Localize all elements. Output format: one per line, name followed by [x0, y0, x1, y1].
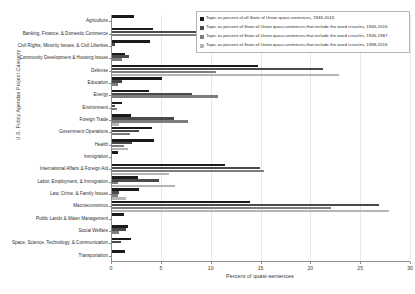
bar	[112, 148, 128, 151]
y-tick-label: Community Development & Housing Issues	[19, 56, 108, 61]
y-tick-label: Transportation	[79, 254, 108, 259]
legend-swatch-icon	[200, 35, 204, 39]
x-tick-mark	[211, 262, 212, 264]
bar	[112, 241, 121, 244]
bar	[112, 210, 389, 213]
y-tick-label: Defense	[91, 68, 108, 73]
bar	[112, 95, 218, 98]
gridline	[161, 15, 162, 262]
x-tick-label: 5	[159, 265, 162, 271]
legend-item[interactable]: Topic as percent of all State of Union q…	[200, 14, 406, 23]
legend-label: Topic as percent of State of Union quasi…	[206, 25, 387, 29]
bar	[112, 250, 125, 253]
x-tick-mark	[111, 262, 112, 264]
x-tick-label: 20	[307, 265, 313, 271]
bar	[112, 213, 124, 216]
x-tick-mark	[310, 262, 311, 264]
y-tick-label: Public Lands & Water Management	[36, 216, 108, 221]
bar	[112, 231, 119, 234]
y-tick-label: Space, Science, Technology, & Communicat…	[12, 241, 108, 246]
y-axis-line	[111, 15, 112, 262]
y-tick-label: Law, Crime, & Family Issues	[50, 192, 108, 197]
legend-swatch-icon	[200, 17, 204, 21]
bar	[112, 133, 130, 136]
bar	[112, 108, 117, 111]
bar	[112, 58, 122, 61]
bar	[112, 179, 159, 182]
legend-label: Topic as percent of State of Union quasi…	[206, 34, 387, 38]
y-tick-label: Social Welfare	[78, 229, 108, 234]
chart-legend: Topic as percent of all State of Union q…	[196, 11, 410, 53]
bar	[112, 15, 134, 18]
bar	[112, 173, 169, 176]
legend-label: Topic as percent of State of Union quasi…	[206, 43, 387, 47]
x-tick-label: 25	[357, 265, 363, 271]
y-tick-label: Energy	[93, 93, 108, 98]
legend-label: Topic as percent of all State of Union q…	[206, 16, 334, 20]
legend-item[interactable]: Topic as percent of State of Union quasi…	[200, 32, 406, 41]
gridline	[410, 15, 411, 262]
y-tick-label: Labor, Employment, & Immigration	[38, 179, 108, 184]
bar	[112, 120, 188, 123]
x-tick-label: 0	[110, 265, 113, 271]
x-tick-label: 30	[407, 265, 413, 271]
bar	[112, 123, 119, 126]
legend-swatch-icon	[200, 26, 204, 30]
y-tick-label: Civil Rights, Minority Issues, & Civil L…	[18, 44, 108, 49]
bar	[112, 83, 118, 86]
x-tick-mark	[360, 262, 361, 264]
bar	[112, 185, 175, 188]
bar	[112, 74, 339, 77]
y-tick-label: Environment	[82, 105, 108, 110]
y-tick-label: Immigration	[84, 155, 108, 160]
y-tick-label: Education	[88, 81, 108, 86]
x-tick-mark	[410, 262, 411, 264]
y-tick-label: Macroeconomics	[73, 204, 108, 209]
y-tick-label: Health	[95, 142, 108, 147]
legend-item[interactable]: Topic as percent of State of Union quasi…	[200, 23, 406, 32]
y-tick-label: Agriculture	[86, 19, 108, 24]
y-tick-label: Banking, Finance, & Domestic Commerce	[23, 31, 108, 36]
bar	[112, 40, 150, 43]
x-tick-mark	[261, 262, 262, 264]
bar	[112, 43, 115, 46]
y-tick-label: Government Operations	[59, 130, 108, 135]
y-tick-label: Foreign Trade	[79, 118, 108, 123]
x-tick-label: 15	[258, 265, 264, 271]
y-tick-label: International Affairs & Foreign Aid	[40, 167, 108, 172]
chart-figure: U.S. Policy Agendas Project Category Per…	[0, 0, 415, 294]
x-tick-label: 10	[208, 265, 214, 271]
bar	[112, 151, 118, 154]
legend-swatch-icon	[200, 44, 204, 48]
legend-item[interactable]: Topic as percent of State of Union quasi…	[200, 41, 406, 50]
bar	[112, 197, 126, 200]
x-tick-mark	[161, 262, 162, 264]
x-axis-title: Percent of quasi-sentences	[108, 273, 412, 279]
